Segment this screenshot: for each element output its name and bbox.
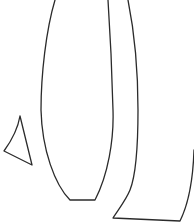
- curved-band-shape: [113, 0, 194, 221]
- line-drawing-canvas: [0, 0, 194, 224]
- small-triangle: [4, 116, 32, 165]
- tall-curved-shape: [41, 0, 113, 200]
